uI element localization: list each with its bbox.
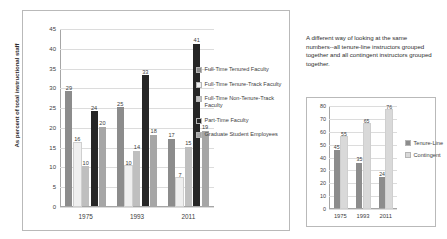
bar: 25 — [117, 107, 124, 206]
gridline — [329, 209, 397, 210]
bar-group: 35651993 — [352, 105, 375, 208]
legend-swatch-icon — [405, 152, 411, 158]
right-chart-plot-area: 01020304050607080 4555197535651993247620… — [329, 106, 397, 209]
bar: 18 — [150, 135, 157, 206]
bar: 20 — [99, 127, 106, 206]
y-tick-label: 35 — [49, 66, 56, 72]
bar-value-label: 24 — [91, 105, 97, 111]
y-tick-label: 20 — [320, 180, 326, 186]
y-tick-label: 40 — [49, 46, 56, 52]
bar-value-label: 24 — [379, 171, 385, 177]
legend-swatch-icon — [196, 96, 202, 102]
bar-value-label: 20 — [99, 120, 105, 126]
bar: 14 — [133, 151, 140, 206]
legend-swatch-icon — [196, 67, 202, 73]
left-legend-item[interactable]: Part-Time Faculty — [196, 117, 282, 124]
legend-label: Part-Time Faculty — [205, 117, 249, 124]
left-legend-item[interactable]: Full-Time Tenure-Track Faculty — [196, 81, 282, 88]
legend-label: Graduate Student Employees — [205, 131, 278, 138]
legend-label: Contingent — [414, 152, 441, 158]
x-axis-label: 1975 — [329, 213, 352, 219]
bar: 76 — [386, 110, 392, 208]
bar-value-label: 29 — [66, 85, 72, 91]
bar-group: 24762011 — [374, 105, 397, 208]
y-tick-label: 40 — [320, 155, 326, 161]
bar-value-label: 41 — [194, 37, 200, 43]
bar: 16 — [74, 143, 81, 206]
legend-label: Full-Time Tenure-Track Faculty — [205, 81, 282, 88]
bar-value-label: 33 — [142, 69, 148, 75]
bar: 10 — [125, 166, 132, 206]
x-axis-label: 1993 — [352, 213, 375, 219]
bar-value-label: 14 — [134, 144, 140, 150]
right-panel-note: A different way of looking at the same n… — [306, 34, 434, 68]
bar-value-label: 7 — [178, 172, 181, 178]
left-chart-panel: As percent of total instructional staff … — [0, 0, 296, 239]
bar-value-label: 65 — [364, 118, 370, 124]
bar: 10 — [82, 166, 89, 206]
bar-value-label: 25 — [117, 101, 123, 107]
y-tick-label: 0 — [323, 206, 326, 212]
bar: 45 — [334, 150, 340, 208]
y-tick-label: 10 — [320, 193, 326, 199]
left-legend-item[interactable]: Full-Time Tenured Faculty — [196, 66, 282, 73]
legend-label: Tenure-Line — [414, 140, 444, 146]
y-tick-label: 45 — [49, 26, 56, 32]
x-axis-label: 2011 — [374, 213, 397, 219]
y-tick-label: 50 — [320, 142, 326, 148]
bar: 17 — [168, 139, 175, 206]
bar-value-label: 76 — [386, 104, 392, 110]
bar-value-label: 15 — [185, 140, 191, 146]
right-chart-legend: Tenure-LineContingent — [405, 140, 447, 164]
right-chart-panel: A different way of looking at the same n… — [300, 0, 439, 239]
bar: 24 — [91, 111, 98, 206]
y-tick-label: 70 — [320, 116, 326, 122]
y-tick-label: 25 — [49, 105, 56, 111]
x-axis-label: 1975 — [60, 213, 111, 220]
legend-swatch-icon — [196, 118, 202, 124]
y-tick-label: 60 — [320, 129, 326, 135]
x-axis-label: 1993 — [111, 213, 162, 220]
right-legend-item[interactable]: Contingent — [405, 152, 447, 158]
bar: 7 — [176, 178, 183, 206]
y-tick-label: 20 — [49, 125, 56, 131]
left-chart-plot-area: 051015202530354045 291610242019752510143… — [60, 29, 214, 207]
left-chart-legend: Full-Time Tenured FacultyFull-Time Tenur… — [196, 66, 282, 146]
gridline — [60, 207, 214, 208]
y-tick-label: 80 — [320, 103, 326, 109]
bar: 24 — [379, 177, 385, 208]
legend-swatch-icon — [405, 140, 411, 146]
bar-value-label: 18 — [151, 128, 157, 134]
bar: 65 — [364, 124, 370, 208]
bar: 35 — [356, 163, 362, 208]
y-tick-label: 15 — [49, 145, 56, 151]
bar-group: 25101433181993 — [111, 28, 162, 206]
bar: 55 — [341, 137, 347, 208]
bar-value-label: 35 — [357, 156, 363, 162]
legend-label: Full-Time Non-Tenure-Track Faculty — [205, 95, 283, 109]
left-chart-y-axis-title: As percent of total instructional staff — [13, 36, 20, 156]
bar: 33 — [142, 75, 149, 206]
y-tick-label: 30 — [320, 167, 326, 173]
bar-value-label: 17 — [168, 132, 174, 138]
y-tick-label: 10 — [49, 164, 56, 170]
bar-value-label: 10 — [83, 160, 89, 166]
bar-group: 45551975 — [329, 105, 352, 208]
bar: 29 — [65, 91, 72, 206]
left-legend-item[interactable]: Full-Time Non-Tenure-Track Faculty — [196, 95, 282, 109]
y-tick-label: 5 — [53, 184, 56, 190]
legend-label: Full-Time Tenured Faculty — [205, 66, 269, 73]
bar-value-label: 55 — [341, 131, 347, 137]
bar-group: 29161024201975 — [60, 28, 111, 206]
right-legend-item[interactable]: Tenure-Line — [405, 140, 447, 146]
left-legend-item[interactable]: Graduate Student Employees — [196, 131, 282, 138]
bar: 15 — [185, 147, 192, 206]
y-tick-label: 30 — [49, 85, 56, 91]
legend-swatch-icon — [196, 82, 202, 88]
bar-value-label: 45 — [334, 144, 340, 150]
bar-value-label: 16 — [74, 136, 80, 142]
right-chart-frame: 01020304050607080 4555197535651993247620… — [306, 97, 436, 227]
y-tick-label: 0 — [53, 204, 56, 210]
bar-value-label: 10 — [125, 160, 131, 166]
x-axis-label: 2011 — [163, 213, 214, 220]
